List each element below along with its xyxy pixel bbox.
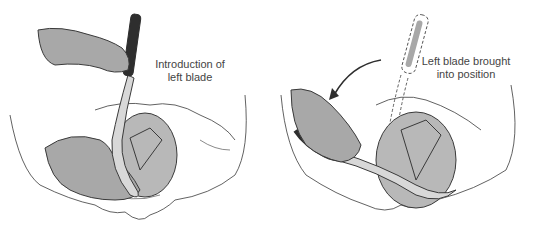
forceps-positioning-illustration <box>266 0 533 240</box>
forceps-introduction-illustration <box>0 0 266 240</box>
caption-line-2: left blade <box>148 71 232 84</box>
caption-introduction: Introduction of left blade <box>148 58 232 84</box>
caption-line-1: Introduction of <box>148 58 232 71</box>
caption-line-1: Left blade brought <box>418 55 514 68</box>
panel-blade-into-position: Left blade brought into position <box>266 0 533 240</box>
caption-positioning: Left blade brought into position <box>418 55 514 81</box>
panel-introduction-left-blade: Introduction of left blade <box>0 0 266 240</box>
caption-line-2: into position <box>418 68 514 81</box>
